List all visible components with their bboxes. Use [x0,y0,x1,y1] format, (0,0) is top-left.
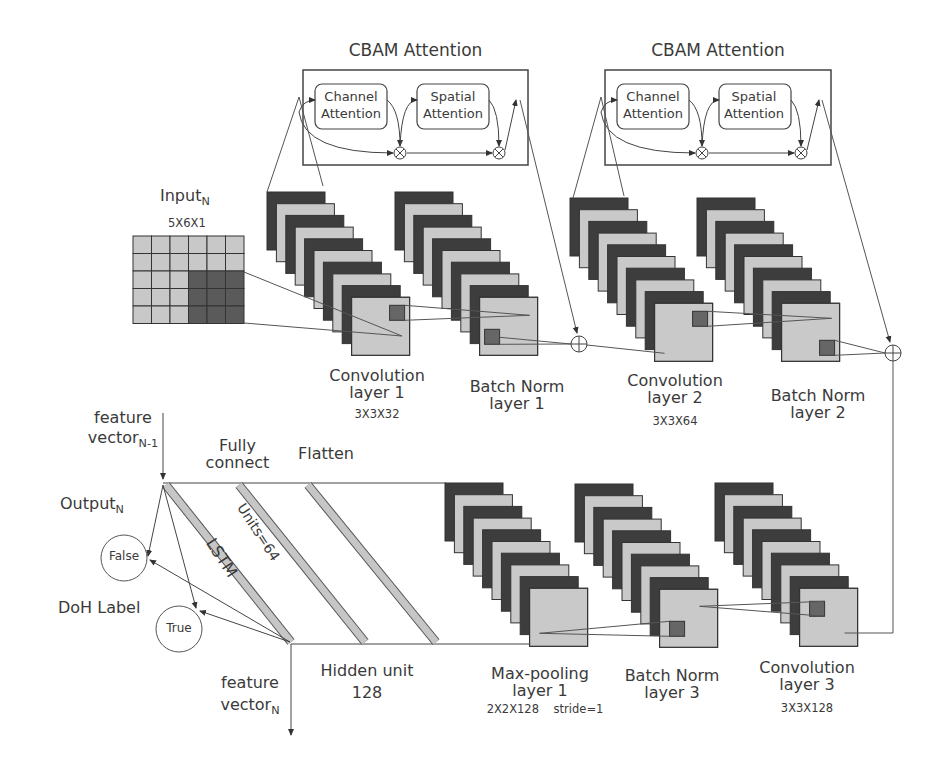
kernel-patch [810,601,825,616]
feature-vector-in-label: featurevectorN-1 [78,408,168,454]
arrow [791,100,801,146]
bn2-to-add [835,353,885,355]
stack-top-3 [570,198,713,361]
input-label: InputN [160,188,210,207]
input-grid [133,236,244,324]
input-cell [189,289,208,307]
feature-map-front [660,589,718,647]
stack-bottom-2 [575,484,718,647]
kernel-patch [820,340,835,355]
input-cell [152,306,171,324]
true-node-label: True [155,622,203,634]
input-cell [133,254,152,272]
arrow [400,100,417,146]
input-cell [170,289,189,307]
input-cell [152,289,171,307]
input-cell [133,236,152,254]
conv1-label: Convolutionlayer 1 [322,367,432,401]
maxpool1-params: 2X2X128 stride=1 [470,704,620,716]
stack-bottom-1 [445,483,588,646]
conv2-to-cbam2 [573,97,601,198]
feature-vector-out-label: featurevectorN [205,672,295,722]
input-cell [226,254,245,272]
input-cell [170,271,189,289]
feature-map-front [480,297,538,355]
conv1-to-cbam1 [267,97,299,192]
cbam2-spatial-attention-label: SpatialAttention [718,88,790,122]
feature-map-front [800,588,858,646]
arrow [702,100,719,146]
input-cell [189,254,208,272]
stack-top-2 [395,192,538,355]
flatten-bar-fill [308,485,436,642]
input-cell [207,289,226,307]
cbam1-spatial-attention-label: SpatialAttention [417,88,489,122]
kernel-patch [390,305,405,320]
cbam1-channel-attention-label: ChannelAttention [315,88,387,122]
conv1-params: 3X3X32 [322,409,432,421]
input-cell [189,236,208,254]
input-cell [226,289,245,307]
conv2-params: 3X3X64 [620,416,730,428]
input-cell [133,289,152,307]
feature-map-front [530,588,588,646]
arrow [505,100,516,150]
input-cell [189,271,208,289]
stack-top-4 [697,198,840,361]
false-node-label: False [100,550,148,562]
fully-connect-bar-fill [239,485,365,642]
input-cell [152,254,171,272]
arrow [807,100,819,150]
kernel-patch [670,621,685,636]
flatten-label: Flatten [298,446,354,462]
input-cell [152,236,171,254]
hidden-unit-label: Hidden unit128 [312,660,422,704]
input-cell [207,254,226,272]
kernel-patch [693,311,708,326]
input-cell [170,306,189,324]
fully-connect-label: Fullyconnect [200,437,275,471]
arrow [489,100,499,146]
cbam2-channel-attention-label: ChannelAttention [617,88,689,122]
arrow [387,100,400,146]
input-cell [189,306,208,324]
input-cell [133,271,152,289]
cbam-title-1: CBAM Attention [303,42,528,59]
conv3-params: 3X3X128 [752,703,862,715]
input-cell [207,236,226,254]
bn2-to-add [835,340,885,353]
doh-label: DoH Label [58,600,140,616]
to-false-arrow [148,485,163,556]
input-cell [226,306,245,324]
stack-bottom-3 [715,483,858,646]
input-shape-label: 5X6X1 [168,218,206,230]
conv2-label: Convolutionlayer 2 [620,372,730,406]
input-cell [226,236,245,254]
arrow [689,100,702,146]
input-cell [207,271,226,289]
input-cell [226,271,245,289]
input-cell [207,306,226,324]
input-cell [170,236,189,254]
kernel-patch [485,329,500,344]
output-label: OutputN [60,496,124,515]
input-cell [133,306,152,324]
maxpool1-label: Max-poolinglayer 1 [485,665,595,699]
input-cell [170,254,189,272]
bn3-label: Batch Normlayer 3 [617,667,727,701]
conv3-label: Convolutionlayer 3 [752,659,862,693]
bn2-label: Batch Normlayer 2 [763,387,873,421]
input-cell [152,271,171,289]
cbam-title-2: CBAM Attention [605,42,831,59]
bn1-label: Batch Normlayer 1 [462,378,572,412]
